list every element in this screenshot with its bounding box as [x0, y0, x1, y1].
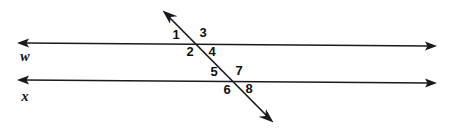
line-x-label: x	[21, 89, 29, 104]
angle-label-8: 8	[245, 81, 252, 96]
angle-label-2: 2	[186, 44, 193, 59]
angle-label-7: 7	[235, 63, 242, 78]
diagram-canvas: w x 1 3 2 4 5 7 6 8	[0, 0, 450, 128]
angle-label-4: 4	[208, 44, 216, 59]
line-w: w	[17, 39, 437, 65]
line-w-label: w	[20, 49, 30, 64]
geometry-diagram: w x 1 3 2 4 5 7 6 8	[0, 0, 450, 128]
transversal-lower-arrowhead	[259, 109, 274, 122]
transversal-segment	[169, 17, 267, 116]
angle-label-1: 1	[172, 27, 179, 42]
line-w-segment	[24, 43, 430, 46]
angle-label-5: 5	[210, 64, 217, 79]
angle-label-3: 3	[199, 25, 206, 40]
angle-label-6: 6	[223, 82, 230, 97]
transversal-upper-arrowhead	[163, 11, 178, 24]
